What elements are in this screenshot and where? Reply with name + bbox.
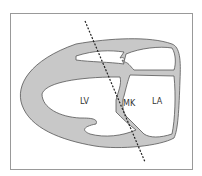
label-mk: MK	[123, 99, 136, 108]
label-lv: LV	[80, 97, 90, 106]
heart-diagram: LV MK LA	[0, 0, 202, 176]
label-la: LA	[152, 97, 163, 106]
